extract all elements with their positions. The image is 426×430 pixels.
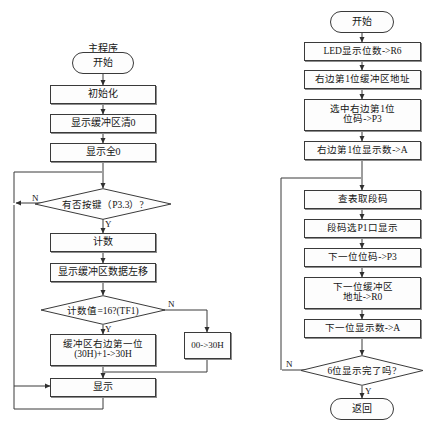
right-select-first-line2: 位码->P3 <box>343 115 382 125</box>
right-return-terminal: 返回 <box>330 398 394 420</box>
right-next-bitcode-box: 下一位位码->P3 <box>304 248 421 267</box>
right-first-digit-box: 右边第1位显示数->A <box>304 141 421 160</box>
left-inc-buffer-box: 缓冲区右边第一位 (30H)+1->30H <box>50 334 156 366</box>
left-clear-buffer-box: 显示缓冲区清0 <box>50 114 156 133</box>
left-inc-buffer-line2: (30H)+1->30H <box>74 350 132 360</box>
right-done-decision-label: 6位显示完了吗? <box>328 363 397 377</box>
left-show-all-zero-box: 显示全0 <box>50 143 156 162</box>
right-select-first-box: 选中右边第1位 位码->P3 <box>304 99 421 131</box>
right-done-yes-label: Y <box>365 386 372 396</box>
left-count-decision-label: 计数值=16?(TF1) <box>67 303 138 317</box>
left-display-box: 显示 <box>50 378 156 397</box>
right-next-buffer-line2: 地址->R0 <box>343 293 383 303</box>
left-count-box: 计数 <box>50 233 156 252</box>
right-lookup-segment-box: 查表取段码 <box>304 190 421 209</box>
left-key-yes-label: Y <box>105 219 112 229</box>
right-next-buffer-box: 下一位缓冲区 地址->R0 <box>304 277 421 309</box>
right-done-no-label: N <box>286 359 293 369</box>
left-key-no-label: N <box>32 193 39 203</box>
right-led-digits-box: LED显示位数->R6 <box>304 42 421 61</box>
left-count-no-label: N <box>168 299 175 309</box>
right-segment-to-p1-box: 段码选P1口显示 <box>304 219 421 238</box>
flowchart-canvas: 主程序 开始 初始化 显示缓冲区清0 显示全0 有否按键（P3.3）? 计数 显… <box>0 0 426 430</box>
right-first-buffer-addr-box: 右边第1位缓冲区地址 <box>304 70 421 89</box>
left-reset-box: 00->30H <box>184 332 231 359</box>
right-start-terminal: 开始 <box>330 11 394 33</box>
left-count-yes-label: Y <box>105 324 112 334</box>
left-start-terminal: 开始 <box>72 52 134 74</box>
left-key-decision-label: 有否按键（P3.3）? <box>62 197 143 211</box>
right-next-digit-box: 下一位显示数->A <box>304 319 421 338</box>
left-init-box: 初始化 <box>50 85 156 104</box>
left-shift-left-box: 显示缓冲区数据左移 <box>50 263 156 282</box>
